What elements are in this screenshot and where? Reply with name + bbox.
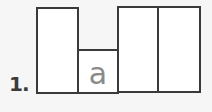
question-number: 1. — [9, 72, 29, 96]
letter-box-2-short[interactable]: a — [77, 49, 119, 94]
letter-box-3-tall[interactable] — [117, 6, 159, 93]
letter-box-2-text: a — [79, 59, 117, 89]
letter-box-1-tall[interactable] — [36, 7, 79, 94]
letter-box-4-tall[interactable] — [157, 6, 201, 93]
